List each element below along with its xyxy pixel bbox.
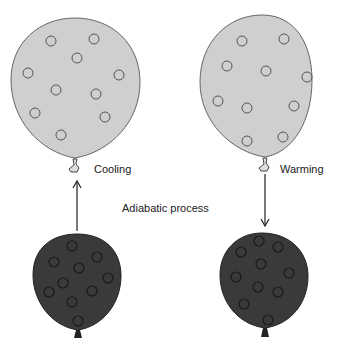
knot-icon bbox=[69, 159, 79, 172]
arrow-down-icon bbox=[261, 174, 269, 226]
adiabatic-diagram: Cooling Warming Adiabatic process bbox=[0, 0, 338, 355]
diagram-canvas bbox=[0, 0, 338, 355]
balloon-left-top bbox=[11, 18, 140, 172]
arrow-up-icon bbox=[73, 181, 81, 231]
balloon-right-bottom bbox=[220, 233, 308, 337]
process-label: Adiabatic process bbox=[122, 202, 209, 214]
balloon-right-top bbox=[200, 15, 312, 171]
balloon-left-bottom bbox=[33, 234, 121, 338]
knot-icon bbox=[259, 158, 269, 171]
cooling-label: Cooling bbox=[94, 163, 131, 175]
warming-label: Warming bbox=[280, 163, 324, 175]
